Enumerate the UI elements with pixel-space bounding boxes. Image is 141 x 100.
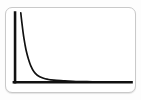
chart-screenshot [0,0,141,100]
chart-card [5,7,136,93]
plot-area [6,8,135,92]
line-chart-svg [6,8,135,92]
series-line-decay [21,13,131,82]
